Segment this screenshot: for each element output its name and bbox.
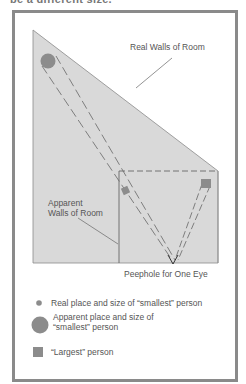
legend-text: Real place and size of “smallest” person [51, 298, 202, 308]
square-icon [31, 346, 45, 358]
legend-item-real-smallest: Real place and size of “smallest” person [31, 298, 202, 308]
legend-item-apparent-smallest: Apparent place and size of “smallest” pe… [31, 312, 154, 334]
peephole-label: Peephole for One Eye [124, 269, 208, 279]
largest-person-square [201, 179, 211, 188]
apparent-smallest-person-circle [41, 54, 56, 69]
legend-text-line2: “smallest” person [53, 322, 154, 332]
apparent-walls-label-line1: Apparent [48, 198, 83, 208]
legend-text-line1: Apparent place and size of [53, 312, 154, 322]
large-circle-icon [31, 312, 51, 334]
real-walls-label: Real Walls of Room [130, 42, 205, 52]
real-room-floor [33, 30, 218, 263]
legend-item-largest: “Largest” person [31, 346, 113, 358]
small-circle-icon [31, 298, 45, 308]
legend-text: “Largest” person [51, 347, 113, 357]
apparent-walls-label-line2: Walls of Room [48, 208, 103, 218]
real-walls-leader [136, 58, 172, 88]
